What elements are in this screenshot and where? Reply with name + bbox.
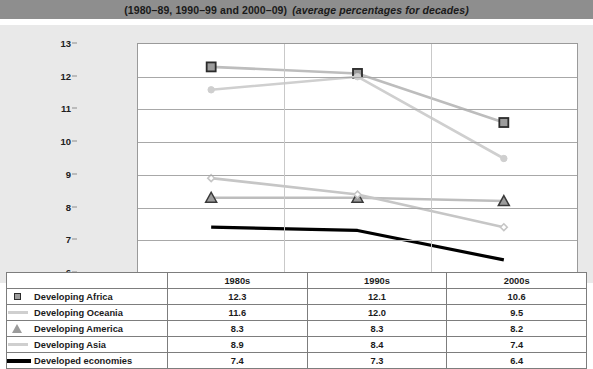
series-line xyxy=(211,77,504,159)
legend-swatch xyxy=(7,307,29,318)
y-axis-tick-label: 13 xyxy=(31,38,71,49)
table-cell-value: 12.1 xyxy=(307,289,447,305)
legend-label: Developing Africa xyxy=(34,292,113,302)
y-axis-tick-mark xyxy=(72,206,77,207)
chart-title-band: (1980–89, 1990–99 and 2000–09) (average … xyxy=(0,0,593,19)
gridline xyxy=(138,142,577,143)
category-separator xyxy=(284,44,285,273)
data-point-marker xyxy=(500,224,507,231)
series-line xyxy=(211,227,504,260)
plot-area xyxy=(137,43,578,274)
y-axis-tick-mark xyxy=(72,239,77,240)
gridline xyxy=(138,208,577,209)
table-cell-value: 12.0 xyxy=(307,305,447,321)
y-axis-tick-label: 10 xyxy=(31,136,71,147)
chart-panel: 678910111213 xyxy=(0,25,593,283)
legend-row-developed-economies: Developed economies xyxy=(7,353,168,369)
table-column-header: 2000s xyxy=(447,273,587,289)
y-axis-tick-label: 11 xyxy=(31,103,71,114)
table-cell-value: 8.2 xyxy=(447,321,587,337)
table-column-header: 1990s xyxy=(307,273,447,289)
table-cell-value: 7.4 xyxy=(447,337,587,353)
y-axis-tick-mark xyxy=(72,75,77,76)
legend-line-icon xyxy=(8,311,28,314)
table-cell-value: 8.3 xyxy=(307,321,447,337)
chart-title-range: (1980–89, 1990–99 and 2000–09) xyxy=(124,4,287,16)
legend-swatch xyxy=(7,339,29,350)
table-header-row: 1980s1990s2000s xyxy=(7,273,587,289)
data-point-marker xyxy=(207,62,216,71)
y-axis-tick-mark xyxy=(72,108,77,109)
table-row: Developing Africa12.312.110.6 xyxy=(7,289,587,305)
legend-label: Developed economies xyxy=(34,356,132,366)
series-developed-economies xyxy=(211,227,504,260)
table-cell-value: 6.4 xyxy=(447,353,587,369)
y-axis-tick-label: 8 xyxy=(31,201,71,212)
legend-square-icon xyxy=(14,293,21,300)
y-axis-tick-label: 9 xyxy=(31,168,71,179)
gridline xyxy=(138,240,577,241)
y-axis-tick-mark xyxy=(72,43,77,44)
legend-label: Developing America xyxy=(34,324,123,334)
data-table: 1980s1990s2000sDeveloping Africa12.312.1… xyxy=(6,272,587,369)
data-point-marker xyxy=(499,118,508,127)
y-axis-tick-mark xyxy=(72,141,77,142)
legend-label: Developing Asia xyxy=(34,340,106,350)
table-row: Developing America8.38.38.2 xyxy=(7,321,587,337)
category-separator xyxy=(431,44,432,273)
y-axis-tick-label: 12 xyxy=(31,70,71,81)
table-cell-value: 10.6 xyxy=(447,289,587,305)
series-developing-oceania xyxy=(208,74,507,162)
data-table-wrapper: 1980s1990s2000sDeveloping Africa12.312.1… xyxy=(6,272,587,363)
legend-triangle-icon xyxy=(12,324,22,333)
table-cell-value: 11.6 xyxy=(168,305,308,321)
legend-thick-line-icon xyxy=(7,359,31,363)
table-cell-value: 7.3 xyxy=(307,353,447,369)
table-cell-value: 12.3 xyxy=(168,289,308,305)
series-layer xyxy=(138,44,577,273)
gridline xyxy=(138,77,577,78)
legend-row-developing-asia: Developing Asia xyxy=(7,337,168,353)
y-axis-tick-label: 7 xyxy=(31,234,71,245)
data-point-marker xyxy=(501,155,507,161)
table-corner-cell xyxy=(7,273,168,289)
legend-row-developing-oceania: Developing Oceania xyxy=(7,305,168,321)
table-cell-value: 8.4 xyxy=(307,337,447,353)
table-cell-value: 7.4 xyxy=(168,353,308,369)
legend-row-developing-africa: Developing Africa xyxy=(7,289,168,305)
table-row: Developing Oceania11.612.09.5 xyxy=(7,305,587,321)
table-column-header: 1980s xyxy=(168,273,308,289)
chart-title-subtitle: (average percentages for decades) xyxy=(292,4,469,16)
y-axis-tick-mark xyxy=(72,173,77,174)
legend-line-icon xyxy=(8,343,28,346)
gridline xyxy=(138,109,577,110)
gridline xyxy=(138,175,577,176)
y-axis: 678910111213 xyxy=(0,25,137,283)
legend-label: Developing Oceania xyxy=(34,308,123,318)
legend-swatch xyxy=(7,291,29,302)
table-row: Developed economies7.47.36.4 xyxy=(7,353,587,369)
table-cell-value: 8.3 xyxy=(168,321,308,337)
table-cell-value: 8.9 xyxy=(168,337,308,353)
legend-swatch xyxy=(7,355,29,366)
table-cell-value: 9.5 xyxy=(447,305,587,321)
data-point-marker xyxy=(208,87,214,93)
table-row: Developing Asia8.98.47.4 xyxy=(7,337,587,353)
legend-row-developing-america: Developing America xyxy=(7,321,168,337)
series-developing-africa xyxy=(207,62,509,127)
legend-swatch xyxy=(7,323,29,334)
